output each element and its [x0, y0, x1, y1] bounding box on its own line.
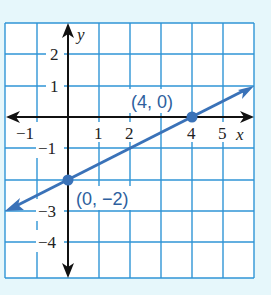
- y-tick-1: 1: [50, 77, 59, 96]
- point-0-neg2: [63, 175, 74, 186]
- y-tick-2: 2: [50, 45, 59, 64]
- y-tick-neg3: −3: [38, 202, 56, 221]
- x-tick-5: 5: [218, 124, 227, 143]
- y-tick-neg4: −4: [38, 233, 57, 252]
- x-tick-4: 4: [187, 124, 196, 143]
- x-tick-1: 1: [94, 124, 103, 143]
- point-4-0: [187, 112, 198, 123]
- x-tick-neg1: −1: [16, 124, 34, 143]
- x-tick-2: 2: [125, 124, 134, 143]
- y-axis-label: y: [75, 25, 85, 44]
- y-tick-neg1: −1: [38, 139, 56, 158]
- point-label-4-0: (4, 0): [131, 92, 173, 112]
- coordinate-graph: y x 2 1 −1 −3 −4 −1 1 2 4 5 (4, 0) (0, −…: [0, 0, 271, 295]
- point-label-0-neg2: (0, −2): [76, 189, 129, 209]
- x-axis-label: x: [235, 125, 244, 144]
